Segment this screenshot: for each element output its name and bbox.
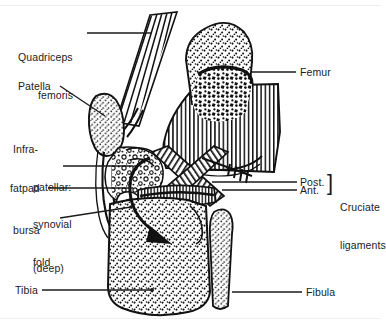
label-anterior-cruciate: Ant. bbox=[300, 184, 319, 197]
label-femur: Femur bbox=[300, 66, 331, 79]
label-cruciate-line1: Cruciate bbox=[340, 201, 386, 214]
cruciate-group-bracket: ] bbox=[327, 172, 333, 194]
label-quadriceps-femoris: Quadriceps femoris bbox=[18, 26, 73, 114]
label-fatpad: fatpad bbox=[10, 182, 40, 195]
label-tibia: Tibia bbox=[15, 284, 38, 297]
label-cruciate-line2: ligaments bbox=[340, 239, 386, 252]
fibula-bone bbox=[206, 206, 242, 316]
label-quadriceps-line1: Quadriceps bbox=[18, 51, 73, 64]
label-patella: Patella bbox=[18, 80, 51, 93]
label-cruciate-ligaments-group: Cruciate ligaments bbox=[340, 176, 386, 264]
label-bursa-line2: (deep) bbox=[13, 262, 64, 275]
tibia-bone bbox=[100, 198, 220, 318]
label-bursa-deep: bursa (deep) bbox=[13, 199, 64, 287]
label-bursa-line1: bursa bbox=[13, 224, 64, 237]
label-infrapatellar-line1: Infra- bbox=[13, 143, 72, 156]
label-fibula: Fibula bbox=[306, 286, 335, 299]
